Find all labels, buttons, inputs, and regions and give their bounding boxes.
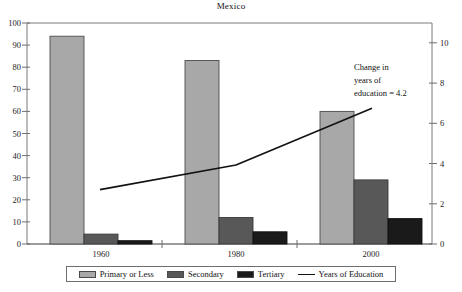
y2-tick-label: 6 bbox=[440, 118, 444, 128]
bar-group-1980 bbox=[185, 61, 287, 245]
y-tick-label: 60 bbox=[13, 106, 22, 116]
legend-swatch-icon bbox=[237, 271, 254, 278]
y2-tick-label: 0 bbox=[440, 239, 444, 249]
bar-tertiary[interactable] bbox=[118, 241, 152, 244]
annotation-line-3: education = 4.2 bbox=[354, 88, 407, 98]
chart-plot-area: 100 90 80 70 60 50 40 30 20 10 0 0 2 4 6… bbox=[0, 0, 462, 292]
bar-secondary[interactable] bbox=[84, 234, 118, 244]
y-tick-label: 10 bbox=[13, 217, 22, 227]
legend-label: Tertiary bbox=[258, 270, 285, 279]
legend-line-icon bbox=[298, 274, 315, 275]
y-tick-label: 30 bbox=[13, 173, 22, 183]
y2-tick-label: 2 bbox=[440, 199, 444, 209]
y-tick-label: 70 bbox=[13, 84, 22, 94]
bar-tertiary[interactable] bbox=[388, 219, 422, 244]
y2-tick-label: 4 bbox=[440, 159, 445, 169]
y-tick-label: 20 bbox=[13, 195, 22, 205]
bar-secondary[interactable] bbox=[219, 218, 253, 245]
bar-primary-or-less[interactable] bbox=[50, 36, 84, 244]
legend-item-secondary[interactable]: Secondary bbox=[167, 270, 224, 279]
x-tick-label-2000: 2000 bbox=[363, 249, 380, 259]
bar-group-1960 bbox=[50, 36, 152, 244]
legend-item-primary-or-less[interactable]: Primary or Less bbox=[79, 270, 154, 279]
bar-group-2000 bbox=[320, 111, 422, 244]
annotation-line-1: Change in bbox=[354, 62, 389, 72]
y-tick-label: 100 bbox=[8, 18, 21, 28]
chart-legend: Primary or Less Secondary Tertiary Years… bbox=[66, 266, 396, 282]
y-tick-label: 50 bbox=[13, 129, 22, 139]
legend-swatch-icon bbox=[79, 271, 96, 278]
legend-item-tertiary[interactable]: Tertiary bbox=[237, 270, 285, 279]
x-axis-category-labels: 1960 1980 2000 bbox=[93, 249, 380, 259]
legend-label: Primary or Less bbox=[100, 270, 154, 279]
legend-item-years-of-education[interactable]: Years of Education bbox=[298, 270, 384, 279]
legend-swatch-icon bbox=[167, 271, 184, 278]
y2-tick-label: 10 bbox=[440, 38, 449, 48]
y2-tick-label: 8 bbox=[440, 78, 444, 88]
chart-annotation: Change in years of education = 4.2 bbox=[354, 62, 407, 98]
bar-tertiary[interactable] bbox=[253, 232, 287, 244]
y-tick-label: 40 bbox=[13, 151, 22, 161]
bar-primary-or-less[interactable] bbox=[320, 111, 354, 244]
y-tick-label: 90 bbox=[13, 40, 22, 50]
chart-container: Mexico 100 90 80 70 60 50 bbox=[0, 0, 462, 292]
annotation-line-2: years of bbox=[354, 75, 381, 85]
y-tick-label: 0 bbox=[17, 239, 21, 249]
x-tick-label-1960: 1960 bbox=[93, 249, 110, 259]
bar-primary-or-less[interactable] bbox=[185, 61, 219, 245]
legend-label: Years of Education bbox=[319, 270, 384, 279]
x-tick-label-1980: 1980 bbox=[228, 249, 245, 259]
legend-label: Secondary bbox=[188, 270, 224, 279]
y-tick-label: 80 bbox=[13, 62, 22, 72]
bar-secondary[interactable] bbox=[354, 180, 388, 244]
